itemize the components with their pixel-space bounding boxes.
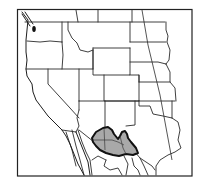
range-map (0, 0, 204, 195)
puget-sound (32, 26, 36, 32)
wa-or-border (27, 41, 62, 42)
map-svg (0, 0, 204, 195)
